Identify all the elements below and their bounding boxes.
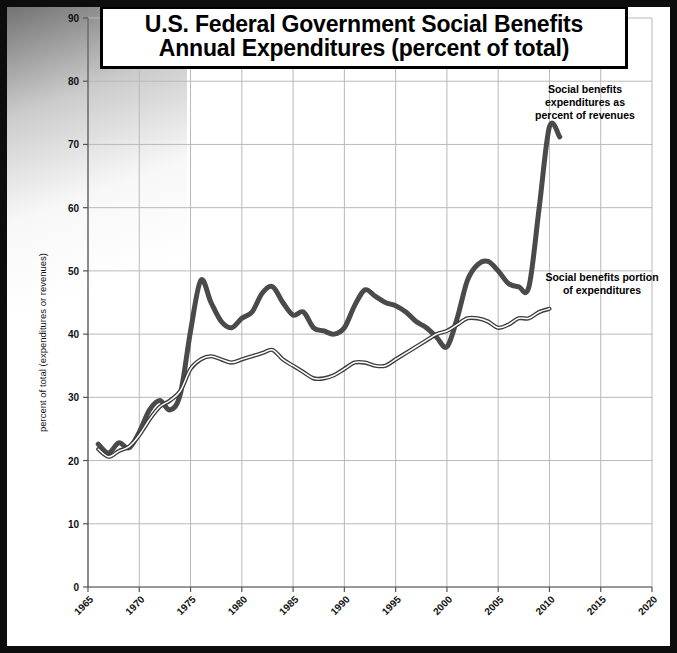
- annotation-expenditures-line-2: of expenditures: [528, 284, 676, 297]
- x-tick-label: 1990: [328, 593, 352, 617]
- data-series: [98, 123, 559, 457]
- annotation-revenues: Social benefits expenditures as percent …: [505, 83, 665, 121]
- y-axis-title: percent of total (expenditures or revenu…: [37, 253, 48, 432]
- x-tick-label: 2020: [636, 593, 660, 617]
- y-tick-label: 20: [68, 456, 80, 467]
- x-tick-label: 1995: [380, 593, 404, 617]
- x-tick-label: 2000: [431, 593, 455, 617]
- annotation-revenues-line-3: percent of revenues: [505, 109, 665, 122]
- y-tick-label: 50: [68, 266, 80, 277]
- x-tick-label: 2015: [585, 593, 609, 617]
- y-tick-label: 70: [68, 139, 80, 150]
- y-tick-label: 40: [68, 329, 80, 340]
- x-tick-label: 1980: [226, 593, 250, 617]
- x-tick-label: 1975: [174, 593, 198, 617]
- x-tick-label: 1965: [72, 593, 96, 617]
- y-tick-label: 10: [68, 519, 80, 530]
- chart-figure: 0102030405060708090196519701975198019851…: [0, 0, 677, 653]
- annotation-expenditures-line-1: Social benefits portion: [528, 271, 676, 284]
- y-axis-title-text: percent of total (expenditures or revenu…: [37, 253, 48, 432]
- annotation-revenues-line-1: Social benefits: [505, 83, 665, 96]
- x-tick-label: 2010: [533, 593, 557, 617]
- x-tick-label: 2005: [482, 593, 506, 617]
- chart-title-box: U.S. Federal Government Social Benefits …: [100, 6, 628, 69]
- y-tick-label: 90: [68, 13, 80, 24]
- y-tick-label: 80: [68, 76, 80, 87]
- annotation-expenditures: Social benefits portion of expenditures: [528, 271, 676, 297]
- chart-title-line-1: U.S. Federal Government Social Benefits: [111, 12, 617, 36]
- y-tick-label: 30: [68, 392, 80, 403]
- y-tick-label: 0: [73, 582, 79, 593]
- y-tick-label: 60: [68, 203, 80, 214]
- annotation-revenues-line-2: expenditures as: [505, 96, 665, 109]
- chart-title-line-2: Annual Expenditures (percent of total): [111, 36, 617, 60]
- x-tick-label: 1985: [277, 593, 301, 617]
- x-tick-label: 1970: [123, 593, 147, 617]
